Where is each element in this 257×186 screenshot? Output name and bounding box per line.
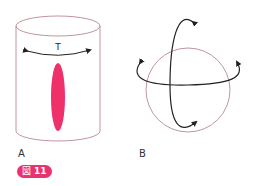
figure-number-badge: 図11 bbox=[17, 165, 52, 178]
vertical-rotation-arrow bbox=[170, 19, 196, 127]
panel-label-a: A bbox=[18, 148, 25, 159]
sphere-diagram bbox=[137, 19, 239, 132]
figure-canvas: T bbox=[0, 0, 257, 186]
cylinder-top bbox=[16, 16, 100, 36]
horizontal-rotation-arrow bbox=[137, 62, 239, 85]
figure-number: 11 bbox=[34, 166, 47, 176]
panel-label-b: B bbox=[139, 148, 146, 159]
cylinder-bottom bbox=[16, 131, 100, 141]
cylinder-diagram: T bbox=[16, 16, 100, 141]
figure-prefix: 図 bbox=[22, 166, 31, 176]
sphere-outline bbox=[146, 48, 230, 132]
lesion bbox=[51, 63, 65, 131]
tension-label: T bbox=[54, 42, 61, 52]
